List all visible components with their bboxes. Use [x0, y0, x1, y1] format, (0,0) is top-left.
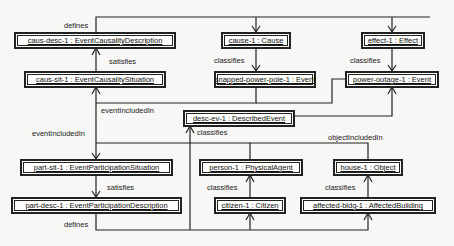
node-cause[interactable]: cause-1 : Cause — [221, 32, 291, 49]
node-label: part-sit-1 : EventParticipationSituation — [34, 163, 159, 172]
edge-label-satisfies-bottom: satisfies — [107, 183, 134, 192]
node-caus-desc[interactable]: caus-desc-1 : EventCausalityDescription — [14, 32, 176, 49]
edge-label-classifies-effect: classifies — [350, 56, 380, 65]
edge-label-objectincludedin: objectIncludedIn — [328, 133, 383, 142]
edge-label-classifies-cause: classifies — [214, 56, 244, 65]
edge-label-defines-bottom: defines — [64, 220, 88, 229]
node-label: cause-1 : Cause — [229, 36, 284, 45]
node-person[interactable]: person-1 : PhysicalAgent — [199, 159, 303, 176]
edge-label-classifies-house: classifies — [325, 183, 355, 192]
node-citizen[interactable]: citizen-1 : Citizen — [214, 197, 286, 214]
edge-label-classifies-desc: classifies — [197, 128, 227, 137]
node-part-desc[interactable]: part-desc-1 : EventParticipationDescript… — [11, 197, 182, 214]
node-desc-ev[interactable]: desc-ev-1 : DescribedEvent — [183, 110, 295, 127]
node-label: part-desc-1 : EventParticipationDescript… — [25, 201, 167, 210]
node-label: power-outage-1 : Event — [353, 75, 431, 84]
node-label: effect-1 : Effect — [368, 36, 418, 45]
node-label: person-1 : PhysicalAgent — [209, 163, 292, 172]
edge-label-defines-top: defines — [64, 21, 88, 30]
node-label: desc-ev-1 : DescribedEvent — [193, 114, 285, 123]
node-label: house-1 : Object — [340, 163, 395, 172]
node-snapped-power-pole[interactable]: snapped-power-pole-1 : Event — [214, 71, 316, 88]
node-caus-sit[interactable]: caus-sit-1 : EventCausalitySituation — [24, 71, 166, 88]
node-affected-bldg[interactable]: affected-bldg-1 : AffectedBuilding — [300, 197, 436, 214]
node-label: caus-sit-1 : EventCausalitySituation — [36, 75, 154, 84]
node-label: caus-desc-1 : EventCausalityDescription — [28, 36, 163, 45]
node-house[interactable]: house-1 : Object — [333, 159, 403, 176]
node-label: affected-bldg-1 : AffectedBuilding — [313, 201, 423, 210]
node-part-sit[interactable]: part-sit-1 : EventParticipationSituation — [20, 159, 173, 176]
edge-label-eventincludedin-left: eventIncludedIn — [32, 129, 85, 138]
node-power-outage[interactable]: power-outage-1 : Event — [345, 71, 439, 88]
edge-label-classifies-person: classifies — [207, 183, 237, 192]
node-effect[interactable]: effect-1 : Effect — [361, 32, 425, 49]
node-label: citizen-1 : Citizen — [221, 201, 278, 210]
edge-label-satisfies-top: satisfies — [109, 57, 136, 66]
edge-label-eventincludedin-top: eventIncludedIn — [101, 106, 154, 115]
node-label: snapped-power-pole-1 : Event — [215, 75, 315, 84]
